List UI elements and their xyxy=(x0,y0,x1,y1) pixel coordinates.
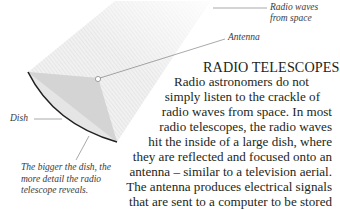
dish-label: Dish xyxy=(10,113,28,124)
body-line: they are reflected and focused onto an xyxy=(133,149,332,164)
caption-line: telescope reveals. xyxy=(21,185,111,197)
body-line: hit the inside of a large dish, where xyxy=(148,134,332,149)
radio-waves-label: Radio waves from space xyxy=(270,2,318,24)
radio-waves-label-line: from space xyxy=(270,13,318,24)
antenna-icon xyxy=(95,76,100,81)
body-line: radio telescopes, the radio waves xyxy=(159,119,332,134)
article-title: RADIO TELESCOPES xyxy=(203,60,340,75)
antenna-label: Antenna xyxy=(228,32,260,43)
body-line: The antenna produces electrical signals xyxy=(126,179,332,194)
body-line: radio waves from space. In most xyxy=(162,104,332,119)
radio-waves-label-line: Radio waves xyxy=(270,2,318,13)
body-line: and converted into electronic images. xyxy=(136,209,332,210)
dish-caption: The bigger the dish, the more detail the… xyxy=(21,162,111,197)
body-line: simply listen to the crackle of xyxy=(165,89,320,104)
caption-line: The bigger the dish, the xyxy=(21,162,111,174)
caption-line: more detail the radio xyxy=(21,174,111,186)
body-line: that are sent to a computer to be stored xyxy=(129,194,332,209)
body-line: antenna – similar to a television aerial… xyxy=(129,164,332,179)
caption-leader xyxy=(76,136,89,160)
body-line: Radio astronomers do not xyxy=(174,74,309,89)
